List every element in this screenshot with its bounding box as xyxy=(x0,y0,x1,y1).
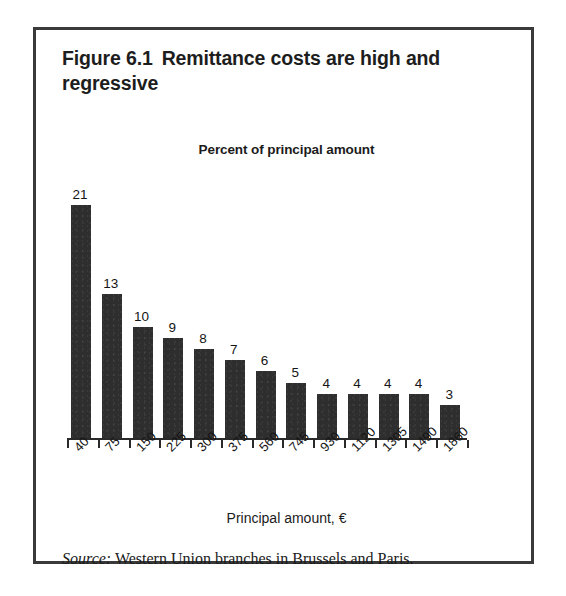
bar-value-label: 4 xyxy=(403,376,433,391)
bar-slot: 4 xyxy=(375,183,406,438)
bar-slot: 5 xyxy=(282,183,313,438)
chart-subtitle: Percent of principal amount xyxy=(36,142,537,157)
bar-slot: 4 xyxy=(313,183,344,438)
bar-value-label: 13 xyxy=(96,276,126,291)
bar-value-label: 3 xyxy=(434,387,464,402)
bar-slot: 7 xyxy=(221,183,252,438)
bar[interactable] xyxy=(71,205,91,438)
bar-slot: 21 xyxy=(67,183,98,438)
bar-series: 2113109876544443 xyxy=(67,183,467,438)
bar-value-label: 21 xyxy=(65,187,95,202)
figure-frame: Figure 6.1Remittance costs are high and … xyxy=(33,27,534,564)
source-text: Western Union branches in Brussels and P… xyxy=(115,550,414,567)
bar-slot: 4 xyxy=(344,183,375,438)
bar-slot: 10 xyxy=(129,183,160,438)
page-title: Figure 6.1Remittance costs are high and … xyxy=(62,46,492,96)
bar-value-label: 4 xyxy=(342,376,372,391)
bar-value-label: 9 xyxy=(157,320,187,335)
bar-slot: 8 xyxy=(190,183,221,438)
bar-slot: 9 xyxy=(159,183,190,438)
x-axis-title: Principal amount, € xyxy=(36,510,537,526)
bar-value-label: 8 xyxy=(188,331,218,346)
source-label: Source: xyxy=(62,550,111,567)
bar-value-label: 5 xyxy=(280,365,310,380)
bar-slot: 3 xyxy=(436,183,467,438)
bar-slot: 13 xyxy=(98,183,129,438)
bar-value-label: 4 xyxy=(373,376,403,391)
bar-slot: 4 xyxy=(405,183,436,438)
bar-value-label: 7 xyxy=(219,342,249,357)
x-axis-tick-labels: 4075150225300375560745930112013051490186… xyxy=(67,444,502,506)
source-note: Source: Western Union branches in Brusse… xyxy=(62,550,512,568)
bar-value-label: 6 xyxy=(250,353,280,368)
bar-slot: 6 xyxy=(252,183,283,438)
chart-plot-area: 2113109876544443 xyxy=(67,170,502,440)
figure-number: Figure 6.1 xyxy=(62,47,153,69)
bar-value-label: 10 xyxy=(127,309,157,324)
bar-value-label: 4 xyxy=(311,376,341,391)
